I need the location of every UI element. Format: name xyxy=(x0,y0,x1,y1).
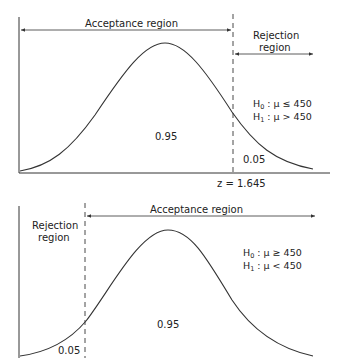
null-hypothesis: H0 : μ ≤ 450 xyxy=(253,98,312,111)
upper-tail-panel: Acceptance region Rejection region H0 : … xyxy=(19,14,330,189)
hypothesis-test-diagram: Acceptance region Rejection region H0 : … xyxy=(0,0,345,358)
alternative-hypothesis: H1 : μ > 450 xyxy=(253,111,312,124)
tail-area-label: 0.05 xyxy=(58,345,80,356)
tail-area-label: 0.05 xyxy=(243,154,265,165)
alternative-hypothesis: H1 : μ < 450 xyxy=(243,260,302,273)
center-area-label: 0.95 xyxy=(157,319,179,330)
center-area-label: 0.95 xyxy=(155,131,177,142)
rejection-label-line2: region xyxy=(259,42,291,53)
critical-value-label: z = 1.645 xyxy=(217,178,266,189)
acceptance-label: Acceptance region xyxy=(150,204,243,215)
null-hypothesis: H0 : μ ≥ 450 xyxy=(243,247,302,260)
lower-tail-panel: Acceptance region Rejection region H0 : … xyxy=(19,203,315,358)
acceptance-label: Acceptance region xyxy=(85,18,178,29)
rejection-label-line1: Rejection xyxy=(32,220,78,231)
rejection-label-line2: region xyxy=(38,232,70,243)
rejection-label-line1: Rejection xyxy=(253,30,299,41)
